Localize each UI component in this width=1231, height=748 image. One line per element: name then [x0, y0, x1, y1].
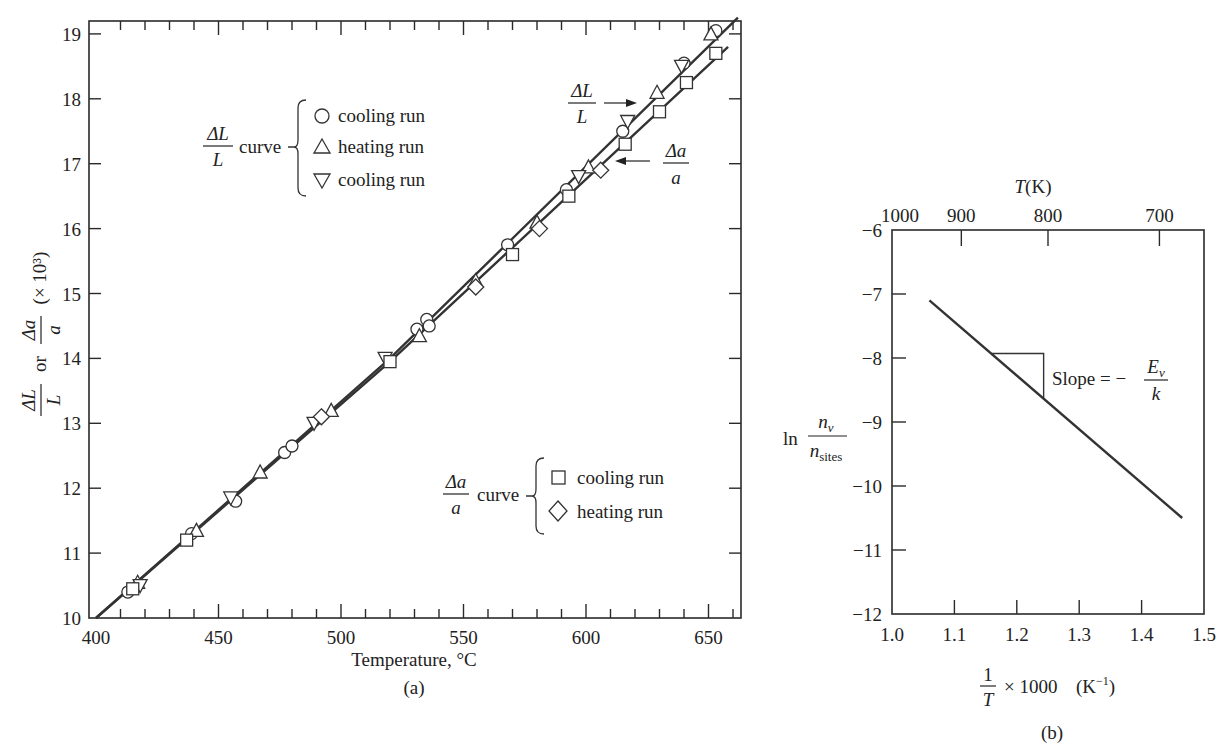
y-den: n: [810, 440, 820, 461]
y-label-ln: ln: [783, 428, 798, 449]
slope-k: k: [1152, 383, 1161, 404]
diamond-data-point: [593, 162, 609, 178]
x-tick-label: 1.4: [1130, 624, 1154, 645]
x-tick-label: 1.3: [1067, 624, 1091, 645]
legend2-entry-2: heating run: [577, 501, 664, 522]
x-label-one: 1: [983, 664, 993, 685]
legend2-num: Δa: [445, 471, 467, 492]
y-label-l: L: [43, 395, 64, 407]
x-label-unit: (K−1): [1076, 674, 1115, 698]
y-num-sub: v: [828, 420, 834, 435]
circle-data-point: [423, 320, 435, 332]
square-data-point: [384, 356, 396, 368]
top-tick-label: 700: [1145, 205, 1174, 226]
chart-b-x-axis-label: 1 T × 1000 (K−1): [980, 664, 1115, 710]
y-tick-label: 17: [62, 154, 81, 175]
slope-annotation: Slope = − Ev k: [1052, 356, 1168, 404]
top-tick-label: 800: [1034, 205, 1063, 226]
y-tick-label: 18: [62, 89, 81, 110]
chart-b-y-axis-label: ln nv nsites: [783, 411, 847, 464]
y-label-da: Δa: [18, 320, 39, 342]
legend1-brace-icon: [288, 100, 306, 196]
legend1-num: ΔL: [206, 123, 229, 144]
square-data-point: [680, 77, 692, 89]
legend2-entry-1: cooling run: [577, 467, 665, 488]
square-data-point: [710, 47, 722, 59]
legend-da-curve: Δa a curve cooling run heating run: [443, 458, 665, 534]
y-tick-label: 19: [62, 24, 81, 45]
chart-a-y-axis-label: ΔL L or Δa a (× 10³): [18, 252, 64, 416]
x-tick-label: 1.1: [943, 624, 967, 645]
y-label-scale: (× 10³): [29, 252, 51, 305]
y-tick-label: −12: [852, 604, 882, 625]
y-label-dl: ΔL: [18, 389, 39, 412]
triangle-down-marker-icon: [314, 174, 330, 188]
annotation2-num: Δa: [665, 140, 687, 161]
square-data-point: [507, 249, 519, 261]
legend2-word: curve: [477, 484, 519, 505]
chart-a-caption: (a): [403, 677, 424, 699]
y-tick-label: −7: [862, 284, 882, 305]
y-label-a: a: [43, 325, 64, 335]
x-tick-label: 650: [694, 627, 723, 648]
chart-b-top-axis-label: T(K): [1015, 176, 1052, 198]
chart-b-lines: [929, 300, 1182, 518]
top-tick-label: 1000: [881, 205, 919, 226]
chart-b-caption: (b): [1041, 722, 1063, 744]
annotation1-den: L: [576, 106, 588, 127]
x-close: ): [1109, 676, 1115, 698]
chart-b: 1.01.11.21.31.41.5−6−7−8−9−10−11−1210009…: [783, 176, 1216, 744]
figure: 40045050055060065010111213141516171819 Δ…: [0, 0, 1231, 748]
chart-b-ticks: 1.01.11.21.31.41.5−6−7−8−9−10−11−1210009…: [852, 205, 1216, 645]
square-marker-icon: [552, 471, 565, 484]
legend1-den: L: [212, 149, 224, 170]
y-tick-label: −9: [862, 412, 882, 433]
square-data-point: [181, 534, 193, 546]
x-tick-label: 600: [572, 627, 601, 648]
arrow-right-icon: [626, 99, 637, 107]
y-tick-label: 13: [62, 413, 81, 434]
y-tick-label: 16: [62, 219, 81, 240]
y-label-num: nv: [818, 411, 834, 435]
legend2-brace-icon: [526, 458, 544, 534]
y-tick-label: 15: [62, 284, 81, 305]
y-label-den: nsites: [810, 440, 843, 464]
legend-dl-curve: ΔL L curve cooling run heating run cooli…: [203, 100, 426, 196]
x-tick-label: 1.5: [1192, 624, 1216, 645]
top-tick-label: 900: [947, 205, 976, 226]
x-label-T: T: [983, 689, 995, 710]
x-tick-label: 500: [327, 627, 356, 648]
triangle-up-marker-icon: [314, 139, 330, 153]
x-tick-label: 400: [82, 627, 111, 648]
y-tick-label: −6: [862, 220, 882, 241]
y-den-sub: sites: [819, 449, 842, 464]
x-tick-label: 550: [449, 627, 478, 648]
slope-E-sub: v: [1159, 365, 1165, 380]
y-num: n: [818, 411, 828, 432]
top-axis-K: (K): [1025, 176, 1051, 198]
chart-b-frame: [892, 230, 1204, 614]
chart-a-x-axis-label: Temperature, °C: [351, 649, 477, 670]
legend1-entry-1: cooling run: [338, 105, 426, 126]
x-label-rest: × 1000: [1004, 676, 1057, 697]
slope-E: E: [1146, 356, 1159, 377]
legend1-entry-3: cooling run: [338, 169, 426, 190]
arrow-left-icon: [615, 157, 626, 165]
slope-num: Ev: [1146, 356, 1165, 380]
circle-marker-icon: [315, 109, 329, 123]
x-exp: −1: [1096, 674, 1109, 688]
square-data-point: [563, 190, 575, 202]
legend2-den: a: [451, 497, 461, 518]
legend1-word: curve: [239, 136, 281, 157]
y-tick-label: −8: [862, 348, 882, 369]
y-tick-label: 11: [63, 543, 81, 564]
annotation1-num: ΔL: [570, 80, 593, 101]
square-data-point: [127, 583, 139, 595]
y-tick-label: 10: [62, 608, 81, 629]
y-tick-label: 14: [62, 348, 82, 369]
square-data-point: [619, 138, 631, 150]
diamond-marker-icon: [549, 501, 567, 521]
x-tick-label: 1.2: [1005, 624, 1029, 645]
chart-a: 40045050055060065010111213141516171819 Δ…: [18, 18, 741, 699]
circle-data-point: [286, 440, 298, 452]
